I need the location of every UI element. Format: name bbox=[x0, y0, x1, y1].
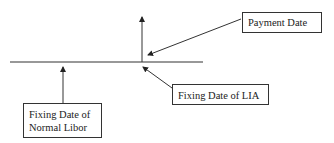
fixing-date-normal-libor-label-line2: Normal Libor bbox=[29, 121, 96, 134]
fixing-date-normal-libor-label-box: Fixing Date of Normal Libor bbox=[23, 103, 102, 138]
fixing-date-normal-libor-label-line1: Fixing Date of bbox=[29, 108, 96, 121]
lia-fixing-pointer-arrow bbox=[143, 67, 172, 88]
payment-date-label-box: Payment Date bbox=[242, 12, 322, 33]
fixing-date-lia-label: Fixing Date of LIA bbox=[178, 89, 263, 102]
fixing-date-lia-label-box: Fixing Date of LIA bbox=[172, 84, 269, 105]
payment-date-pointer-arrow bbox=[148, 19, 241, 55]
payment-date-label: Payment Date bbox=[248, 16, 316, 29]
